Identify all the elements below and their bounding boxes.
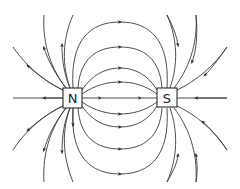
field-line-arc-top-4 — [82, 82, 120, 94]
connecting-field-lines-top — [73, 22, 168, 94]
connecting-field-lines-bottom — [73, 102, 168, 174]
field-line-arc-top-3 — [82, 68, 120, 90]
south-pole: S — [157, 88, 177, 107]
magnetic-field-diagram: N S — [0, 0, 240, 189]
north-pole: N — [63, 88, 82, 108]
south-pole-label: S — [163, 91, 171, 106]
north-pole-label: N — [68, 91, 78, 106]
